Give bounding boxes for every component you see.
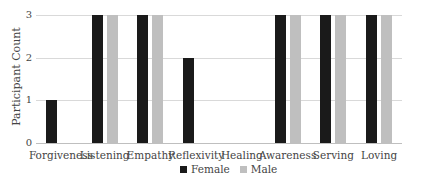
y-axis-label: Participant Count (10, 27, 23, 127)
bar-male-loving (381, 15, 392, 143)
bar-female-listening (92, 15, 103, 143)
bar-female-loving (366, 15, 377, 143)
legend-swatch-male (240, 166, 247, 173)
legend-label-male: Male (251, 163, 278, 175)
bar-male-awareness (290, 15, 301, 143)
x-axis-line (36, 143, 402, 144)
legend-item-male: Male (240, 163, 278, 175)
y-tick-3: 3 (20, 9, 32, 20)
legend-swatch-female (180, 166, 187, 173)
bar-male-serving (335, 15, 346, 143)
bar-female-reflexivity (183, 58, 194, 143)
bar-female-serving (320, 15, 331, 143)
bar-male-listening (107, 15, 118, 143)
bar-female-empathy (137, 15, 148, 143)
legend-label-female: Female (191, 163, 230, 175)
legend: Female Male (180, 163, 277, 175)
x-tick-loving: Loving (349, 149, 409, 161)
bar-female-forgiveness (46, 100, 57, 143)
y-tick-2: 2 (20, 52, 32, 63)
bar-male-empathy (152, 15, 163, 143)
y-tick-0: 0 (20, 137, 32, 148)
bar-female-awareness (275, 15, 286, 143)
y-tick-1: 1 (20, 94, 32, 105)
legend-item-female: Female (180, 163, 230, 175)
